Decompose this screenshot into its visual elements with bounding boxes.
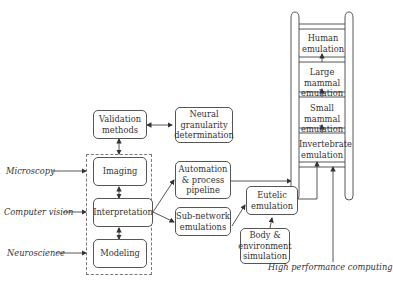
- rung-human-emulation: Human emulation: [302, 33, 344, 54]
- neural-granularity-box: Neural granularity determination: [175, 107, 233, 143]
- input-computer-vision: Computer vision: [4, 207, 73, 217]
- eutelic-emulation-box: Eutelic emulation: [246, 186, 298, 215]
- rung-large-mammal-emulation: Large mammal emulation: [299, 67, 345, 99]
- rung-small-mammal-emulation: Small mammal emulation: [299, 103, 345, 135]
- automation-pipeline-box: Automation & process pipeline: [175, 161, 231, 199]
- input-neuroscience: Neuroscience: [7, 248, 65, 258]
- rung-invertebrate-emulation: Invertebrate emulation: [299, 139, 345, 160]
- subnetwork-emulations-box: Sub-network emulations: [175, 207, 231, 236]
- body-environment-box: Body & environment simulation: [240, 228, 290, 264]
- hpc-label: High performance computing: [268, 262, 393, 272]
- interpretation-box: Interpretation: [93, 198, 153, 227]
- input-microscopy: Microscopy: [6, 166, 55, 176]
- modeling-box: Modeling: [93, 239, 147, 268]
- validation-methods-box: Validation methods: [93, 110, 147, 139]
- imaging-box: Imaging: [93, 157, 147, 186]
